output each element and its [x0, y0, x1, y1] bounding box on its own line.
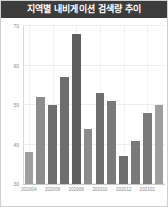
bar[interactable]: [60, 77, 69, 184]
bar[interactable]: [155, 105, 164, 184]
bar-series: [23, 26, 165, 184]
x-axis-tick-label: 202010: [92, 188, 107, 193]
bar[interactable]: [143, 113, 152, 184]
widget-title-bar: 지역별 내비게이션 검색량 추이: [1, 1, 167, 18]
bar[interactable]: [119, 156, 128, 184]
bar[interactable]: [72, 34, 81, 184]
chart-plot-area: 3040506070 20200420200620200820201020201…: [1, 18, 168, 207]
y-axis-tick-label: 50: [13, 103, 19, 108]
chart-widget: 지역별 내비게이션 검색량 추이 3040506070 202004202006…: [0, 0, 168, 207]
bar[interactable]: [25, 152, 34, 184]
x-axis-tick-label: 202102: [140, 188, 155, 193]
bar[interactable]: [48, 105, 57, 184]
x-axis-tick-label: 202004: [21, 188, 36, 193]
x-axis-line: [23, 184, 165, 185]
bar[interactable]: [84, 129, 93, 184]
x-axis-tick-label: 202008: [69, 188, 84, 193]
y-axis-tick-label: 60: [13, 63, 19, 68]
bar[interactable]: [36, 97, 45, 184]
bar[interactable]: [96, 93, 105, 184]
y-axis-tick-label: 30: [13, 182, 19, 187]
y-axis-tick-label: 70: [13, 24, 19, 29]
page-title: 지역별 내비게이션 검색량 추이: [27, 5, 142, 14]
x-axis-tick-label: 202006: [45, 188, 60, 193]
bar[interactable]: [107, 101, 116, 184]
x-axis-tick-label: 202012: [116, 188, 131, 193]
x-axis-tick-labels: 202004202006202008202010202012202102: [23, 187, 165, 199]
y-axis-tick-label: 40: [13, 142, 19, 147]
bar[interactable]: [131, 141, 140, 184]
y-axis-tick-labels: 3040506070: [1, 26, 21, 184]
